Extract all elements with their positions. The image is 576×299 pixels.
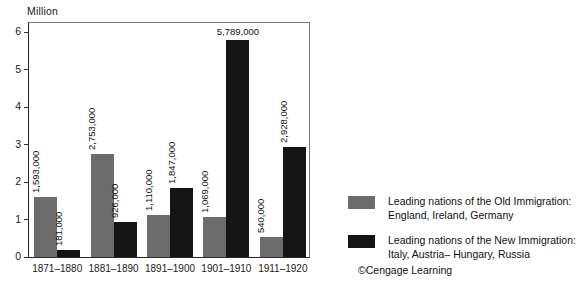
bar-value-label: 1,593,000	[30, 151, 41, 193]
y-axis-tick-label: 3	[1, 138, 21, 151]
y-axis-tick-mark	[24, 32, 29, 33]
bar-value-label: 540,000	[255, 198, 266, 232]
x-axis-tick-label: 1901–1910	[201, 263, 251, 274]
legend-swatch-old-icon	[348, 196, 375, 209]
bar-group: 1,069,0005,789,0001901–1910	[203, 23, 249, 257]
bar-value-label: 1,110,000	[143, 170, 154, 212]
x-axis-tick-label: 1891–1900	[145, 263, 195, 274]
bar-value-label: 926,000	[109, 184, 120, 218]
legend-item-old-immigration: Leading nations of the Old Immigration: …	[348, 195, 568, 222]
bar-old-immigration: 1,069,000	[203, 217, 226, 257]
y-axis-tick-mark	[24, 144, 29, 145]
bar-group: 1,110,0001,847,0001891–1900	[147, 23, 193, 257]
chart-legend: Leading nations of the Old Immigration: …	[348, 195, 568, 273]
y-axis-tick-label: 2	[1, 175, 21, 188]
bar-old-immigration: 1,110,000	[147, 215, 170, 257]
y-axis-tick-label: 0	[1, 250, 21, 263]
bar-new-immigration: 926,000	[114, 222, 137, 257]
bar-old-immigration: 540,000	[260, 237, 283, 257]
bar-value-label: 1,847,000	[166, 142, 177, 184]
legend-label-old-line2: England, Ireland, Germany	[388, 209, 571, 223]
bar-value-label: 2,928,000	[278, 101, 289, 143]
legend-label-new: Leading nations of the New Immigration: …	[388, 234, 576, 261]
bar-new-immigration: 181,000	[57, 250, 80, 257]
bar-value-label: 2,753,000	[86, 108, 97, 150]
y-axis-tick-mark	[24, 69, 29, 70]
y-axis-tick-label: 4	[1, 100, 21, 113]
copyright-credit: ©Cengage Learning	[358, 264, 452, 276]
x-axis-tick-label: 1911–1920	[258, 263, 307, 274]
bar-group: 540,0002,928,0001911–1920	[260, 23, 306, 257]
y-axis-tick-label: 6	[1, 25, 21, 38]
y-axis-tick-label: 1	[1, 213, 21, 226]
bar-new-immigration: 2,928,000	[283, 147, 306, 257]
legend-swatch-new-icon	[348, 235, 375, 248]
legend-item-new-immigration: Leading nations of the New Immigration: …	[348, 234, 568, 261]
x-axis-tick-label: 1871–1880	[32, 263, 82, 274]
y-axis-tick-mark	[24, 257, 29, 258]
y-axis-tick-mark	[24, 182, 29, 183]
x-axis-tick-label: 1881–1890	[89, 263, 139, 274]
bar-new-immigration: 5,789,000	[226, 40, 249, 257]
bar-group: 1,593,000181,0001871–1880	[34, 23, 80, 257]
bar-group: 2,753,000926,0001881–1890	[91, 23, 137, 257]
legend-label-new-line1: Leading nations of the New Immigration:	[388, 234, 576, 248]
plot-area: 01234561,593,000181,0001871–18802,753,00…	[28, 22, 310, 258]
bar-value-label: 5,789,000	[217, 26, 259, 37]
bar-value-label: 1,069,000	[199, 171, 210, 213]
bar-value-label: 181,000	[53, 212, 64, 246]
bar-new-immigration: 1,847,000	[170, 188, 193, 257]
legend-label-new-line2: Italy, Austria– Hungary, Russia	[388, 248, 576, 262]
y-axis-tick-mark	[24, 107, 29, 108]
y-axis-tick-mark	[24, 219, 29, 220]
y-axis-tick-label: 5	[1, 63, 21, 76]
y-axis-unit-label: Million	[27, 5, 58, 17]
legend-label-old-line1: Leading nations of the Old Immigration:	[388, 195, 571, 209]
legend-label-old: Leading nations of the Old Immigration: …	[388, 195, 571, 222]
